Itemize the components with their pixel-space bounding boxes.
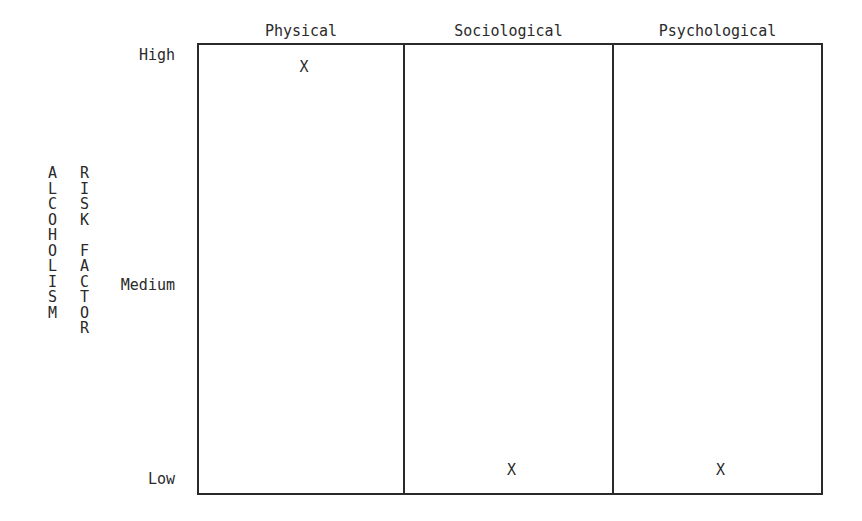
column-label-psychological: Psychological [659, 22, 776, 40]
marker-physical: X [299, 58, 308, 76]
y-axis-label-letter: R [80, 321, 89, 337]
marker-sociological: X [507, 461, 516, 479]
risk-factor-chart: PhysicalSociologicalPsychological LowMed… [0, 0, 862, 521]
row-labels: LowMediumHigh [121, 46, 176, 488]
y-axis-label-alcoholism: ALCOHOLISM [48, 166, 57, 321]
column-label-physical: Physical [265, 22, 337, 40]
y-axis-label-risk-factor: RISK FACTOR [80, 166, 89, 337]
marker-psychological: X [716, 461, 725, 479]
row-label-medium: Medium [121, 276, 175, 294]
row-label-high: High [139, 46, 175, 64]
y-axis-label-letter: M [48, 306, 57, 322]
column-labels: PhysicalSociologicalPsychological [265, 22, 776, 40]
chart-frame [198, 44, 822, 494]
data-marks: XXX [299, 58, 725, 479]
chart-border [198, 44, 822, 494]
row-label-low: Low [148, 470, 176, 488]
column-label-sociological: Sociological [454, 22, 562, 40]
